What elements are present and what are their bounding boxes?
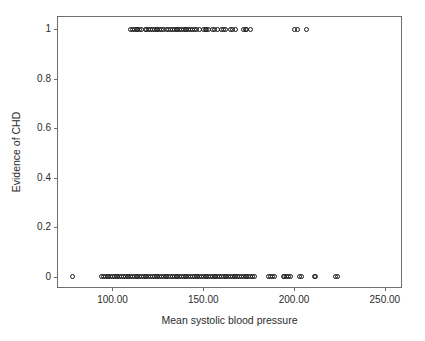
x-tick-label: 100.00 [97, 295, 128, 305]
scatter-plot-figure: Evidence of CHD 00.20.40.60.81 100.00150… [0, 0, 425, 341]
y-tick-mark [54, 227, 58, 228]
y-axis-title-label: Evidence of CHD [10, 112, 22, 193]
x-axis-title: Mean systolic blood pressure [57, 314, 402, 326]
y-axis-title: Evidence of CHD [9, 16, 23, 288]
data-point [288, 274, 293, 279]
data-point [248, 27, 253, 32]
y-tick-mark [54, 277, 58, 278]
y-tick-label: 0.2 [37, 222, 51, 232]
plot-frame: 00.20.40.60.81 100.00150.00200.00250.00 [57, 16, 402, 288]
data-point [335, 274, 340, 279]
data-point [233, 27, 238, 32]
y-tick-label: 0 [45, 272, 51, 282]
data-point [70, 274, 75, 279]
y-tick-mark [54, 178, 58, 179]
x-tick-mark [385, 287, 386, 291]
data-point [272, 274, 277, 279]
y-tick-mark [54, 29, 58, 30]
y-tick-label: 0.6 [37, 123, 51, 133]
data-point [223, 27, 228, 32]
data-point [313, 274, 318, 279]
x-tick-label: 250.00 [370, 295, 401, 305]
plot-area [58, 17, 401, 287]
data-point [304, 27, 309, 32]
y-tick-mark [54, 79, 58, 80]
x-tick-mark [203, 287, 204, 291]
x-axis-title-label: Mean systolic blood pressure [162, 314, 298, 326]
y-tick-label: 0.4 [37, 173, 51, 183]
data-point [299, 274, 304, 279]
x-tick-mark [112, 287, 113, 291]
x-tick-label: 150.00 [188, 295, 219, 305]
y-tick-label: 0.8 [37, 74, 51, 84]
x-tick-mark [294, 287, 295, 291]
y-tick-label: 1 [45, 24, 51, 34]
x-tick-label: 200.00 [279, 295, 310, 305]
data-point [252, 274, 257, 279]
y-tick-mark [54, 128, 58, 129]
data-point [295, 27, 300, 32]
